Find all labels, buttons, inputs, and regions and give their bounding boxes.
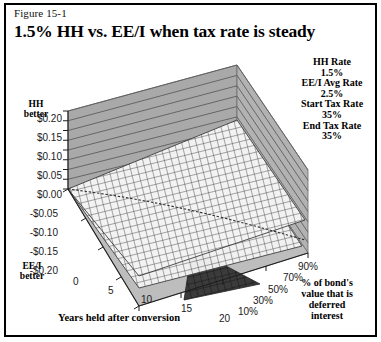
z-axis-tick-label-3: 70% xyxy=(283,272,303,283)
z-axis-tick-label-2: 50% xyxy=(268,284,288,295)
z-axis-title: % of bond's value that is deferred inter… xyxy=(284,277,370,321)
figure-number-label: Figure 15-1 xyxy=(14,7,67,19)
figure-container: Figure 15-1 1.5% HH vs. EE/I when tax ra… xyxy=(0,0,381,342)
y-axis-tick-label-6: -$0.10 xyxy=(14,227,58,238)
z-axis-tick-label-4: 90% xyxy=(298,261,318,272)
z-axis-tick-label-1: 30% xyxy=(253,295,273,306)
param-value-end-tax-rate: 35% xyxy=(286,131,378,142)
z-axis-title-line3: deferred xyxy=(284,299,370,310)
y-axis-tick-label-4: $0.00 xyxy=(18,189,62,200)
figure-title: 1.5% HH vs. EE/I when tax rate is steady xyxy=(14,21,315,42)
x-axis-tick-label-0: 0 xyxy=(73,276,79,287)
param-value-start-tax-rate: 35% xyxy=(286,110,378,121)
x-axis-title: Years held after conversion xyxy=(58,312,180,323)
z-axis-title-line2: value that is xyxy=(284,288,370,299)
x-axis-tick-label-2: 10 xyxy=(141,294,152,305)
param-name-hh-rate: HH Rate xyxy=(286,57,378,68)
y-axis-tick-label-5: -$0.05 xyxy=(14,208,58,219)
y-axis-tick-label-2: $0.10 xyxy=(18,151,62,162)
y-axis-tick-label-8: -$0.20 xyxy=(14,265,58,276)
z-axis-tick-label-0: 10% xyxy=(238,306,258,317)
y-axis-ticks xyxy=(63,111,68,189)
z-axis-title-line4: interest xyxy=(284,310,370,321)
y-axis-note-hh-line1: HH xyxy=(13,99,59,109)
y-axis-tick-label-3: $0.05 xyxy=(18,170,62,181)
parameter-legend: HH Rate 1.5% EE/I Avg Rate 2.5% Start Ta… xyxy=(286,57,378,142)
y-axis-tick-label-0: $0.20 xyxy=(18,113,62,124)
x-axis-tick-label-3: 15 xyxy=(181,303,192,314)
y-axis-tick-label-7: -$0.15 xyxy=(14,246,58,257)
y-axis-tick-label-1: $0.15 xyxy=(18,132,62,143)
x-axis-tick-label-4: 20 xyxy=(219,313,230,324)
x-axis-tick-label-1: 5 xyxy=(108,285,114,296)
